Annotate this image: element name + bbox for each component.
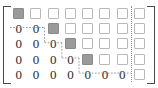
matrix-empty-entry [65, 8, 76, 19]
matrix-cell-r1c7 [114, 6, 131, 21]
matrix-cell-r4c8 [131, 52, 148, 67]
matrix-cell-r4c1: 0 [10, 52, 27, 67]
matrix-cell-r2c4 [62, 21, 79, 36]
matrix-empty-entry [117, 8, 128, 19]
matrix-cell-r5c7: 0 [114, 67, 131, 82]
matrix-cell-r5c3: 0 [45, 67, 62, 82]
matrix-pivot-entry [65, 38, 76, 49]
matrix-zero-entry: 0 [15, 22, 22, 35]
matrix-zero-entry: 0 [15, 68, 22, 81]
matrix-cell-r1c2 [27, 6, 44, 21]
matrix-cell-r4c6 [96, 52, 113, 67]
matrix-empty-entry [30, 8, 41, 19]
matrix-zero-entry: 0 [50, 68, 57, 81]
matrix-zero-entry: 0 [67, 68, 74, 81]
matrix-zero-entry: 0 [15, 37, 22, 50]
matrix-empty-entry [65, 23, 76, 34]
matrix-cell-r3c7 [114, 36, 131, 51]
matrix-cell-r1c1 [10, 6, 27, 21]
matrix-empty-entry [117, 38, 128, 49]
augmented-column-separator [131, 6, 132, 82]
matrix-cell-r2c7 [114, 21, 131, 36]
matrix-cell-r1c3 [45, 6, 62, 21]
matrix-empty-entry [134, 69, 145, 80]
matrix-cell-r2c3 [45, 21, 62, 36]
matrix-zero-entry: 0 [33, 68, 40, 81]
matrix-cell-r1c6 [96, 6, 113, 21]
matrix-empty-entry [134, 8, 145, 19]
matrix-cell-r5c4: 0 [62, 67, 79, 82]
matrix-cell-r2c5 [79, 21, 96, 36]
matrix-empty-entry [82, 38, 93, 49]
matrix-cell-r4c4: 0 [62, 52, 79, 67]
matrix-zero-entry: 0 [50, 37, 57, 50]
matrix-pivot-entry [82, 54, 93, 65]
matrix-cell-r2c1: 0 [10, 21, 27, 36]
matrix-cell-r3c2: 0 [27, 36, 44, 51]
matrix-zero-entry: 0 [119, 68, 126, 81]
matrix-zero-entry: 0 [102, 68, 109, 81]
matrix-cell-r5c6: 0 [96, 67, 113, 82]
matrix-cell-r5c5: 0 [79, 67, 96, 82]
matrix-empty-entry [48, 8, 59, 19]
matrix-zero-entry: 0 [15, 53, 22, 66]
matrix-pivot-entry [48, 23, 59, 34]
matrix-empty-entry [134, 54, 145, 65]
matrix-empty-entry [99, 54, 110, 65]
matrix-zero-entry: 0 [33, 53, 40, 66]
matrix-cell-r4c5 [79, 52, 96, 67]
matrix-zero-entry: 0 [33, 37, 40, 50]
matrix-right-bracket [147, 6, 155, 84]
matrix-zero-entry: 0 [84, 68, 91, 81]
matrix-cell-r3c1: 0 [10, 36, 27, 51]
matrix-cell-r5c2: 0 [27, 67, 44, 82]
matrix-empty-entry [99, 8, 110, 19]
matrix-cell-r4c2: 0 [27, 52, 44, 67]
matrix-grid: 0000000000000000 [10, 6, 148, 82]
matrix-cell-r2c2: 0 [27, 21, 44, 36]
matrix-cell-r1c4 [62, 6, 79, 21]
matrix-zero-entry: 0 [50, 53, 57, 66]
matrix-empty-entry [117, 23, 128, 34]
matrix-empty-entry [117, 54, 128, 65]
matrix-empty-entry [134, 38, 145, 49]
matrix-empty-entry [99, 23, 110, 34]
matrix-cell-r4c7 [114, 52, 131, 67]
matrix-cell-r2c6 [96, 21, 113, 36]
matrix-cell-r2c8 [131, 21, 148, 36]
matrix-empty-entry [134, 23, 145, 34]
matrix-cell-r1c5 [79, 6, 96, 21]
matrix-empty-entry [99, 38, 110, 49]
matrix-cell-r3c5 [79, 36, 96, 51]
matrix-zero-entry: 0 [33, 22, 40, 35]
matrix-cell-r5c1: 0 [10, 67, 27, 82]
matrix-pivot-entry [13, 8, 24, 19]
matrix-cell-r3c6 [96, 36, 113, 51]
row-echelon-matrix-figure: 0000000000000000 [0, 0, 158, 88]
matrix-cell-r3c4 [62, 36, 79, 51]
matrix-empty-entry [82, 23, 93, 34]
matrix-cell-r5c8 [131, 67, 148, 82]
matrix-cell-r1c8 [131, 6, 148, 21]
matrix-zero-entry: 0 [67, 53, 74, 66]
matrix-empty-entry [82, 8, 93, 19]
matrix-cell-r3c3: 0 [45, 36, 62, 51]
matrix-cell-r3c8 [131, 36, 148, 51]
matrix-cell-r4c3: 0 [45, 52, 62, 67]
